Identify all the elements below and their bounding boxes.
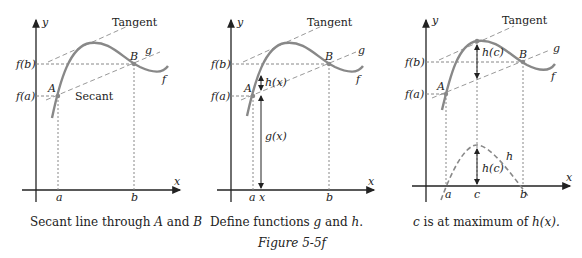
svg-text:A: A <box>436 80 445 93</box>
caption-panel-3: c is at maximum of h(x). <box>413 215 560 229</box>
svg-text:b: b <box>326 191 333 204</box>
svg-text:g: g <box>553 42 560 55</box>
svg-text:Secant: Secant <box>75 90 114 103</box>
svg-text:f(a): f(a) <box>15 90 35 103</box>
caption-text: Secant line through <box>30 215 154 229</box>
caption-var: B <box>193 215 202 229</box>
svg-text:g: g <box>145 44 152 57</box>
svg-text:b: b <box>520 188 527 201</box>
svg-text:h: h <box>506 150 513 163</box>
svg-text:f(b): f(b) <box>404 56 425 69</box>
caption-text: is at maximum of <box>420 215 532 229</box>
svg-text:A: A <box>47 82 56 95</box>
caption-panel-2: Define functions g and h. <box>210 215 363 229</box>
svg-text:f(a): f(a) <box>404 88 424 101</box>
caption-text: and <box>321 215 351 229</box>
svg-text:a: a <box>249 191 256 204</box>
svg-text:h(x): h(x) <box>265 76 287 89</box>
svg-text:Tangent: Tangent <box>112 16 158 29</box>
svg-text:y: y <box>431 14 439 27</box>
svg-text:B: B <box>518 48 527 61</box>
svg-text:x: x <box>174 175 181 188</box>
svg-text:h(c): h(c) <box>482 46 504 59</box>
svg-text:f(b): f(b) <box>210 58 231 71</box>
svg-text:B: B <box>129 50 138 63</box>
svg-text:f: f <box>161 73 168 86</box>
svg-text:g: g <box>358 44 365 57</box>
caption-var: h(x). <box>532 215 560 229</box>
svg-text:f: f <box>355 73 362 86</box>
svg-text:a: a <box>445 188 452 201</box>
svg-text:x: x <box>259 191 266 204</box>
svg-text:b: b <box>131 191 138 204</box>
svg-text:Tangent: Tangent <box>307 16 353 29</box>
svg-text:x: x <box>566 171 573 184</box>
panel-secant: y Tangent g f f(b) f(a) A B Secant a b x <box>15 16 181 204</box>
svg-text:f(a): f(a) <box>210 90 230 103</box>
caption-text: . <box>359 215 363 229</box>
svg-text:y: y <box>41 16 49 29</box>
svg-text:a: a <box>56 191 63 204</box>
caption-text: Define functions <box>210 215 314 229</box>
svg-text:A: A <box>243 82 252 95</box>
svg-text:x: x <box>368 175 375 188</box>
svg-text:c: c <box>474 188 480 201</box>
svg-text:h(c): h(c) <box>482 162 504 175</box>
svg-text:f: f <box>550 70 557 83</box>
caption-var: A <box>154 215 163 229</box>
caption-var: c <box>413 215 420 229</box>
panel-define-gh: y Tangent g f f(b) f(a) A B h(x) g(x) a … <box>210 16 375 204</box>
svg-text:Tangent: Tangent <box>502 14 548 27</box>
svg-text:y: y <box>236 16 244 29</box>
figure-label: Figure 5-5f <box>258 236 326 250</box>
panel-max-h: y Tangent g f f(b) f(a) A B h(c) h(c) h … <box>404 14 573 202</box>
svg-text:g(x): g(x) <box>265 130 287 143</box>
caption-panel-1: Secant line through A and B <box>30 215 202 229</box>
caption-text: and <box>163 215 193 229</box>
svg-text:f(b): f(b) <box>15 58 36 71</box>
svg-text:B: B <box>324 50 333 63</box>
